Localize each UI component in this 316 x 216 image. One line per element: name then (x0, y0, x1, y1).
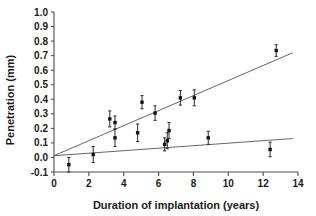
point-marker (92, 153, 95, 156)
point-marker (163, 143, 166, 146)
point-marker (113, 136, 116, 139)
x-tick-label: 10 (223, 178, 235, 189)
y-tick-label: 0.6 (34, 65, 48, 76)
data-point (167, 123, 170, 139)
data-point (268, 142, 271, 157)
y-tick-label: 0.4 (34, 94, 48, 105)
data-point (113, 116, 116, 129)
point-marker (108, 117, 111, 120)
y-tick-label: 0.7 (34, 50, 48, 61)
y-tick-label: 0.8 (34, 36, 48, 47)
data-point (207, 131, 210, 144)
x-tick-label: 12 (258, 178, 270, 189)
point-marker (67, 163, 70, 166)
x-tick-label: 4 (121, 178, 127, 189)
data-point (92, 147, 95, 163)
point-marker (167, 129, 170, 132)
y-tick-label: 1.0 (34, 7, 48, 18)
chart-figure: -0.10.00.10.20.30.40.50.60.70.80.91.0024… (0, 0, 316, 216)
regression-lines (54, 53, 293, 156)
y-tick-label: 0.9 (34, 21, 48, 32)
point-marker (153, 111, 156, 114)
point-marker (207, 136, 210, 139)
x-tick-label: 2 (86, 178, 92, 189)
axis-tick-labels: -0.10.00.10.20.30.40.50.60.70.80.91.0024… (31, 7, 304, 190)
data-point (179, 91, 182, 106)
data-point (108, 111, 111, 127)
axis-ticks (51, 12, 298, 176)
axes (54, 12, 298, 172)
data-point (140, 96, 143, 109)
y-axis-title: Penetration (mm) (4, 54, 16, 145)
x-tick-label: 14 (292, 178, 304, 189)
x-axis-title: Duration of implantation (years) (93, 199, 260, 211)
y-tick-label: -0.1 (31, 167, 49, 178)
point-marker (179, 96, 182, 99)
upper-regression-line (54, 53, 293, 156)
data-point (153, 106, 156, 121)
y-tick-label: 0.0 (34, 152, 48, 163)
point-marker (136, 131, 139, 134)
y-tick-label: 0.1 (34, 137, 48, 148)
x-tick-label: 0 (51, 178, 57, 189)
point-marker (275, 49, 278, 52)
point-marker (193, 96, 196, 99)
point-marker (140, 100, 143, 103)
scatter-plot: -0.10.00.10.20.30.40.50.60.70.80.91.0024… (0, 0, 316, 216)
data-point (136, 124, 139, 141)
data-point (193, 90, 196, 106)
data-point (166, 133, 169, 149)
point-marker (113, 121, 116, 124)
y-tick-label: 0.2 (34, 123, 48, 134)
data-point (275, 45, 278, 57)
point-marker (166, 139, 169, 142)
x-tick-label: 6 (156, 178, 162, 189)
data-point (67, 157, 70, 172)
lower-regression-line (54, 139, 293, 156)
data-point (113, 129, 116, 146)
x-tick-label: 8 (191, 178, 197, 189)
point-marker (268, 148, 271, 151)
y-tick-label: 0.3 (34, 108, 48, 119)
y-tick-label: 0.5 (34, 79, 48, 90)
